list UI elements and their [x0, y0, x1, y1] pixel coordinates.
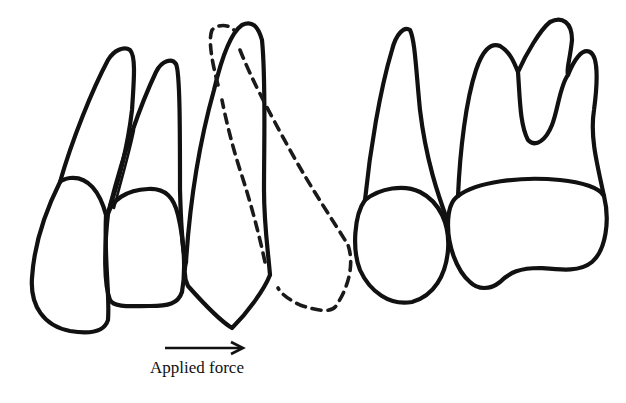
- applied-force-arrow: [165, 342, 243, 354]
- lateral-incisor-crown: [105, 189, 184, 306]
- dental-diagram: [0, 0, 626, 403]
- central-incisor-crown: [32, 178, 109, 333]
- premolar-crown: [355, 188, 448, 303]
- canine-displaced-dashed: [210, 26, 350, 311]
- molar-crown: [448, 179, 607, 288]
- central-incisor-root: [60, 48, 134, 212]
- applied-force-label: Applied force: [150, 358, 244, 378]
- canine-tooth: [185, 23, 270, 328]
- molar-roots: [458, 20, 604, 196]
- lateral-incisor-root: [110, 61, 186, 262]
